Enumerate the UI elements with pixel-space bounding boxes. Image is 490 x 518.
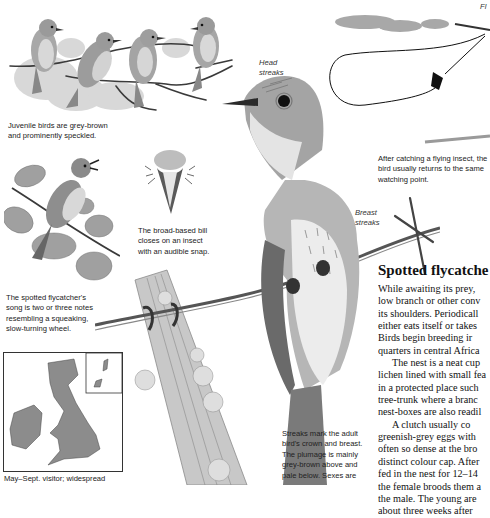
article-line: nest-boxes are also readil: [378, 406, 490, 418]
caption-line: Streaks mark the adult: [282, 429, 362, 439]
article-line: lichen lined with small fea: [378, 369, 490, 381]
main-bird-head: [222, 70, 332, 190]
article-line: Birds begin breeding ir: [378, 332, 490, 344]
caption-line: bird's crown and breast.: [282, 439, 362, 449]
article-line: While awaiting its prey,: [378, 283, 490, 295]
caption-line: grey-brown above and: [282, 460, 362, 470]
flight-path-diagram: [325, 0, 490, 150]
label-line: Head: [259, 58, 283, 68]
caption-line: pale below. Sexes are: [282, 471, 362, 481]
article-line: its shoulders. Periodicall: [378, 308, 490, 320]
caption-line: slow-turning wheel.: [6, 324, 93, 334]
article-line: often so dense at the bro: [378, 443, 490, 455]
caption-line: resembling a squeaking,: [6, 314, 93, 324]
caption-line: The plumage is mainly: [282, 450, 362, 460]
article-line: the female broods them a: [378, 481, 490, 493]
article-line: in a protected place such: [378, 382, 490, 394]
article-line: greenish-grey eggs with: [378, 431, 490, 443]
article-line: quarters in central Africa: [378, 345, 490, 357]
article-line: about three weeks after: [378, 505, 490, 517]
caption-line: The spotted flycatcher's: [6, 293, 93, 303]
label-line: Breast: [355, 208, 379, 218]
caption-line: Juvenile birds are grey-brown: [8, 121, 108, 131]
streaks-caption: Streaks mark the adult bird's crown and …: [282, 429, 362, 481]
article-line: either eats itself or takes: [378, 320, 490, 332]
article-line: the male. The young are: [378, 493, 490, 505]
map-caption: May–Sept. visitor; widespread: [4, 474, 105, 484]
breast-streaks-label: Breast streaks: [355, 208, 379, 228]
caption-line: song is two or three notes: [6, 303, 93, 313]
article-line: A clutch usually co: [378, 419, 490, 431]
juveniles-caption: Juvenile birds are grey-brown and promin…: [8, 121, 108, 142]
article-body: While awaiting its prey, low branch or o…: [378, 283, 490, 518]
range-map: [3, 352, 123, 472]
juvenile-birds-illustration: [6, 8, 238, 118]
caption-line: After catching a flying insect, the: [378, 154, 487, 164]
label-line: streaks: [355, 218, 379, 228]
article-line: low branch or other conv: [378, 295, 490, 307]
article-line: tree-trunk where a branc: [378, 394, 490, 406]
label-line: streaks: [259, 68, 283, 78]
flight-label-fragment: Fl: [480, 2, 486, 12]
head-streaks-label: Head streaks: [259, 58, 283, 78]
article-line: The nest is a neat cup: [378, 357, 490, 369]
article-heading: Spotted flycatche: [378, 262, 490, 279]
article-line: distinct colour cap. After: [378, 456, 490, 468]
article-line: fed in the nest for 12–14: [378, 468, 490, 480]
song-caption: The spotted flycatcher's song is two or …: [6, 293, 93, 335]
article-column: Spotted flycatche While awaiting its pre…: [378, 262, 490, 518]
caption-line: and prominently speckled.: [8, 131, 108, 141]
caption-line: bird usually returns to the same: [378, 164, 487, 174]
